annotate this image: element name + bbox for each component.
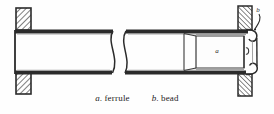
bead-callout-label: b bbox=[256, 6, 260, 14]
ferrule-bead-line-drawing: a b bbox=[0, 0, 274, 114]
tube-sheet-hatched-block-left-top bbox=[16, 8, 31, 30]
tube-sheet-hatched-block-right-bottom bbox=[238, 74, 252, 96]
tube-sheet-hatched-block-left-bottom bbox=[16, 72, 31, 94]
figure-container: a b a.ferrule b.bead bbox=[0, 0, 274, 114]
ferrule-body bbox=[196, 36, 244, 68]
tube-sheet-hatched-block-right-top bbox=[238, 6, 252, 30]
ferrule-callout-label: a bbox=[215, 47, 219, 55]
bead-leader-dot bbox=[254, 28, 256, 30]
